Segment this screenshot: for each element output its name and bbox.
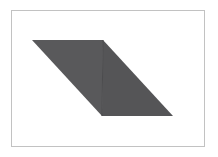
left-triangle: [32, 40, 103, 116]
right-triangle: [102, 40, 173, 116]
figure-canvas: [0, 0, 218, 157]
parallelogram-shape: [0, 0, 218, 157]
